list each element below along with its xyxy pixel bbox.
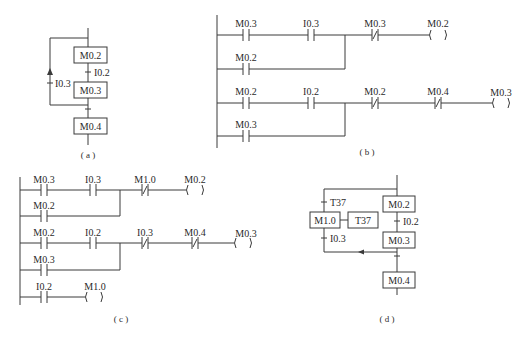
sfc-a-transition-i03: I0.3 — [55, 78, 71, 89]
contact-label: I0.3 — [85, 174, 101, 185]
sfc-a-step-m02-label: M0.2 — [80, 50, 101, 61]
contact-nc — [142, 184, 148, 196]
contact-nc — [192, 237, 198, 249]
contact-label: M0.3 — [33, 174, 54, 185]
contact-label: M0.3 — [364, 18, 385, 29]
contact-nc — [372, 97, 378, 109]
coil-label: M0.2 — [427, 18, 448, 29]
sfc-d-step-m10-label: M1.0 — [314, 215, 335, 226]
contact-no — [308, 29, 314, 41]
contact-label: I0.2 — [85, 227, 101, 238]
caption-a: ( a ) — [81, 150, 96, 160]
contact-label: M0.3 — [33, 254, 54, 265]
sfc-d-step-m04-label: M0.4 — [388, 275, 409, 286]
sfc-d-action-t37-label: T37 — [355, 215, 371, 226]
contact-label: M0.2 — [364, 86, 385, 97]
sfc-a-step-m03-label: M0.3 — [80, 85, 101, 96]
contact-label: M0.4 — [184, 227, 205, 238]
coil — [235, 238, 252, 248]
contact-no — [243, 97, 249, 109]
contact-label: M0.2 — [33, 200, 54, 211]
left-arrow-icon — [358, 250, 364, 255]
contact-label: M0.2 — [235, 52, 256, 63]
contact-no — [90, 237, 96, 249]
contact-label: M0.2 — [235, 86, 256, 97]
sfc-d-transition-i03: I0.3 — [330, 233, 346, 244]
sfc-d-step-m02-label: M0.2 — [388, 199, 409, 210]
contact-label: M0.2 — [33, 227, 54, 238]
coil-label: M0.3 — [235, 228, 256, 239]
diagram-b: M0.3 I0.3 M0.3 M0.2 M0.2 M0.2 — [217, 15, 512, 157]
contact-label: I0.2 — [36, 281, 52, 292]
contact-label: M1.0 — [134, 174, 155, 185]
contact-label: I0.2 — [303, 86, 319, 97]
sfc-a-transition-i02: I0.2 — [94, 67, 110, 78]
contact-nc — [372, 29, 378, 41]
sfc-a-step-m04-label: M0.4 — [80, 121, 101, 132]
sfc-d-step-m03-label: M0.3 — [388, 235, 409, 246]
contact-no — [41, 237, 47, 249]
coil — [187, 185, 204, 195]
contact-no — [41, 184, 47, 196]
coil-label: M0.3 — [490, 87, 511, 98]
contact-no — [41, 291, 47, 303]
contact-no — [308, 97, 314, 109]
contact-no — [41, 264, 47, 276]
contact-no — [243, 130, 249, 142]
coil — [493, 98, 510, 108]
contact-label: M0.3 — [235, 18, 256, 29]
contact-label: I0.3 — [137, 227, 153, 238]
diagram-d: M0.2 I0.2 M0.3 M0.4 T37 M1.0 T37 I0.3 ( … — [310, 175, 419, 324]
caption-d: ( d ) — [380, 314, 395, 324]
contact-no — [41, 210, 47, 222]
contact-no — [243, 63, 249, 75]
sfc-d-transition-i02: I0.2 — [403, 216, 419, 227]
caption-c: ( c ) — [114, 314, 129, 324]
sfc-d-transition-t37: T37 — [330, 197, 346, 208]
contact-no — [243, 29, 249, 41]
coil — [430, 30, 447, 40]
coil — [86, 292, 103, 302]
coil-label: M0.2 — [184, 174, 205, 185]
contact-nc — [142, 237, 148, 249]
up-arrow-icon — [47, 68, 53, 75]
diagram-a: I0.3 M0.2 I0.2 M0.3 M0.4 ( a ) — [47, 28, 110, 160]
contact-label: M0.3 — [235, 119, 256, 130]
coil-label: M1.0 — [84, 281, 105, 292]
contact-label: I0.3 — [303, 18, 319, 29]
plc-diagram-figure: I0.3 M0.2 I0.2 M0.3 M0.4 ( a ) M0.3 I0.3 — [0, 0, 529, 346]
contact-label: M0.4 — [427, 86, 448, 97]
caption-b: ( b ) — [360, 147, 375, 157]
diagram-c: M0.3 I0.3 M1.0 M0.2 M0.2 M0.2 — [20, 174, 257, 324]
contact-no — [90, 184, 96, 196]
contact-nc — [435, 97, 441, 109]
